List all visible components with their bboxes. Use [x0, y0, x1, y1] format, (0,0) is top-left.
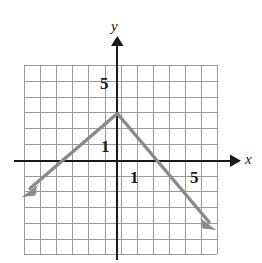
- x-axis-tick-label-5: 5: [190, 169, 199, 186]
- x-axis: [14, 155, 241, 168]
- grid-vertical-lines: [25, 65, 218, 254]
- graph-figure: 5 1 1 5 y x: [0, 0, 262, 263]
- x-axis-tick-label-1: 1: [130, 169, 139, 186]
- y-axis-tick-label-5: 5: [100, 75, 109, 92]
- x-axis-arrowhead: [230, 155, 241, 168]
- y-axis: [111, 36, 124, 260]
- y-axis-tick-label-1: 1: [101, 138, 110, 155]
- y-axis-arrowhead: [111, 36, 124, 46]
- x-axis-name-label: x: [245, 152, 252, 167]
- function-curve: [22, 114, 216, 231]
- coordinate-plane-svg: [0, 0, 262, 263]
- y-axis-name-label: y: [111, 19, 118, 34]
